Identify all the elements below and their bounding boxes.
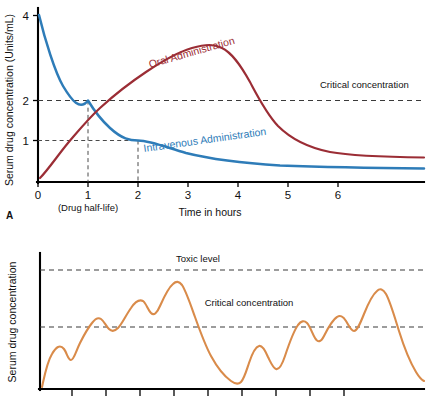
panel-a-ylabel: Serum drug concentration (Units/mL) bbox=[3, 14, 15, 186]
panel-a-oral-curve bbox=[40, 45, 424, 178]
panel-a-xtick-label-1: 1 bbox=[85, 189, 91, 201]
panel-a: Serum drug concentration (Units/mL) 4 2 … bbox=[3, 8, 424, 221]
panel-a-xtick-label-4: 4 bbox=[235, 189, 242, 201]
panel-b-toxic-label: Toxic level bbox=[176, 253, 220, 264]
panel-b-critical-label: Critical concentration bbox=[205, 297, 294, 308]
panel-b: Serum drug concentration Toxic level Cri… bbox=[6, 253, 426, 396]
pharmacokinetics-figure: Serum drug concentration (Units/mL) 4 2 … bbox=[0, 0, 428, 400]
panel-b-ylabel: Serum drug concentration bbox=[6, 261, 18, 382]
panel-a-halflife-note: (Drug half-life) bbox=[58, 202, 118, 213]
panel-a-letter: A bbox=[6, 210, 13, 221]
panel-a-xtick-label-6: 6 bbox=[335, 189, 341, 201]
panel-a-xtick-label-2: 2 bbox=[135, 189, 141, 201]
panel-a-ytick-label-4: 4 bbox=[23, 10, 30, 22]
panel-a-critical-label: Critical concentration bbox=[320, 79, 409, 90]
panel-a-xtick-label-3: 3 bbox=[185, 189, 191, 201]
panel-a-xlabel: Time in hours bbox=[178, 206, 241, 218]
panel-a-oral-label: Oral Administration bbox=[147, 34, 236, 70]
panel-a-xtick-label-0: 0 bbox=[35, 189, 41, 201]
panel-a-iv-label: Intravenous Administration bbox=[143, 125, 267, 154]
panel-a-xtick-label-5: 5 bbox=[285, 189, 291, 201]
panel-a-ytick-label-2: 2 bbox=[23, 95, 29, 107]
figure-svg: Serum drug concentration (Units/mL) 4 2 … bbox=[0, 0, 428, 400]
panel-a-ytick-label-1: 1 bbox=[23, 135, 29, 147]
